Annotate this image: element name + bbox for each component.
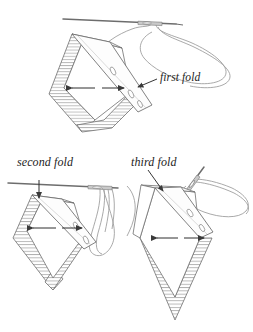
step-1-diagram xyxy=(49,19,230,132)
step-2-diagram xyxy=(8,180,118,290)
label-first-fold: first fold xyxy=(160,72,200,84)
leader-line-first-fold xyxy=(138,79,157,87)
needle-1 xyxy=(63,19,183,26)
label-third-fold: third fold xyxy=(131,156,177,168)
needle-2 xyxy=(8,183,118,190)
step-3-diagram xyxy=(127,167,249,320)
figure-root: first fold second fold third fold xyxy=(0,0,253,332)
thread-loop-2 xyxy=(89,188,114,256)
label-second-fold: second fold xyxy=(17,156,73,168)
